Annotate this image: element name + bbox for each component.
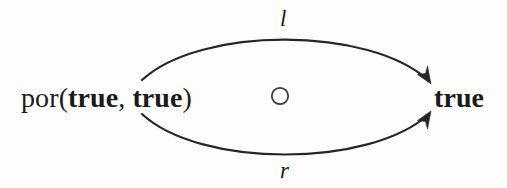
source-separator: , [118,82,132,113]
upper-edge-arrowhead [418,66,432,84]
source-open-paren: ( [59,82,68,113]
lower-edge-arrow [142,111,431,155]
source-arg2: true [132,82,182,113]
lower-edge-path [142,114,429,155]
upper-edge-path [142,40,429,81]
center-circle-icon [272,88,288,104]
source-arg1: true [68,82,118,113]
source-node-label: por(true, true) [21,84,192,112]
lower-edge-label: r [280,159,289,182]
upper-edge-label: l [280,7,286,30]
diagram-canvas: por(true, true) true l r [0,0,507,188]
lower-edge-arrowhead [418,111,432,129]
target-node-label: true [434,84,484,112]
source-close-paren: ) [183,82,192,113]
source-function-name: por [21,82,59,113]
upper-edge-arrow [142,40,431,84]
target-node-text: true [434,82,484,113]
